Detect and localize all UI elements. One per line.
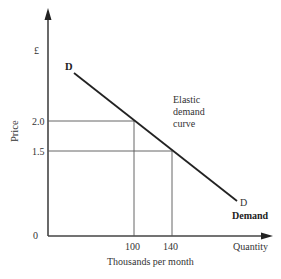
x-units-label: Thousands per month [107, 256, 194, 267]
origin-label: 0 [33, 230, 38, 241]
demand-curve [74, 73, 237, 201]
x-axis-arrow-icon [261, 233, 273, 240]
demand-chart: £ Price 2.0 1.5 0 100 140 Quantity Thous… [0, 0, 281, 279]
y-axis-arrow-icon [45, 8, 52, 20]
annotation-line-1: Elastic [173, 94, 201, 105]
annotation-line-2: demand [173, 106, 205, 117]
y-axis-label: Price [9, 120, 20, 142]
curve-start-label: D [65, 61, 73, 72]
x-axis-label: Quantity [233, 241, 268, 252]
x-tick-140: 140 [163, 241, 178, 252]
x-tick-100: 100 [125, 241, 140, 252]
curve-end-label: D [240, 197, 247, 208]
demand-label: Demand [232, 210, 269, 221]
y-tick-2-0: 2.0 [32, 116, 45, 127]
currency-label: £ [34, 45, 39, 56]
y-tick-1-5: 1.5 [32, 146, 45, 157]
annotation-line-3: curve [173, 118, 196, 129]
